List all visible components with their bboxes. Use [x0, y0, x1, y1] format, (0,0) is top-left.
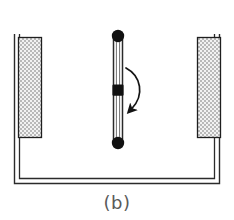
- diagram-canvas: [0, 0, 234, 220]
- left-electrode-panel: [19, 38, 42, 138]
- right-electrode-panel: [198, 38, 221, 138]
- figure-caption: (b): [0, 192, 234, 214]
- bottom-pivot-node: [112, 137, 124, 149]
- vessel-outer-wall: [15, 34, 220, 184]
- middle-pivot-node: [112, 85, 123, 96]
- rotation-direction-arrow: [126, 68, 140, 109]
- figure-root: (b): [0, 0, 234, 220]
- top-pivot-node: [112, 30, 124, 42]
- vessel-inner-wall: [20, 34, 215, 179]
